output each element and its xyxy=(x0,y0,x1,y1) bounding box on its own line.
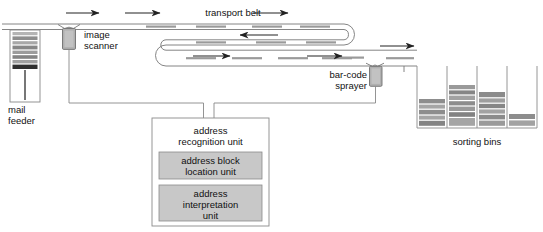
transport-belt-label: transport belt xyxy=(178,7,288,18)
bin-stack-3 xyxy=(479,92,505,126)
mail-feeder xyxy=(10,30,40,102)
image-scanner xyxy=(58,25,80,50)
address-block-location-unit-label: address block location unit xyxy=(159,155,262,177)
bin-stack-4 xyxy=(509,114,535,126)
wire-scanner-to-aru xyxy=(69,50,204,119)
bin-stack-2 xyxy=(449,85,475,126)
barcode-sprayer-label: bar-code sprayer xyxy=(295,69,367,91)
sorting-bins-label: sorting bins xyxy=(422,136,532,147)
image-scanner-label: image scanner xyxy=(84,29,154,51)
belt-mail-ticks xyxy=(146,27,414,59)
address-recognition-unit-label: address recognition unit xyxy=(152,125,269,147)
address-interpretation-unit-label: address interpretation unit xyxy=(159,188,262,221)
wire-aru-to-sprayer xyxy=(214,87,376,119)
sorting-bins xyxy=(417,66,537,128)
bin-stack-1 xyxy=(419,99,445,126)
mail-sorting-diagram xyxy=(0,0,543,232)
mail-feeder-label: mail feeder xyxy=(8,104,68,126)
barcode-sprayer xyxy=(366,63,384,86)
